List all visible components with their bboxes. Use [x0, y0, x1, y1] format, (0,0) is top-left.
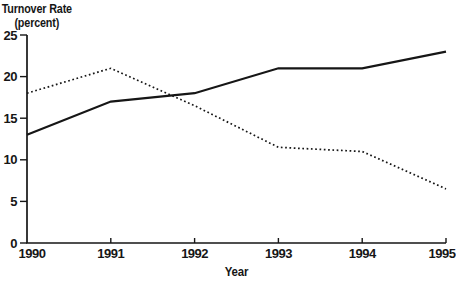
chart-plot-area: 0510152025199019911992199319941995: [0, 0, 456, 286]
axes: [27, 35, 446, 243]
turnover-rate-chart: 0510152025199019911992199319941995 Turno…: [0, 0, 456, 286]
y-axis-title-line1: Turnover Rate: [0, 2, 74, 16]
y-axis-title: Turnover Rate (percent): [0, 2, 74, 30]
x-tick-label: 1993: [265, 246, 292, 261]
solid-series-line: [27, 52, 446, 135]
y-tick-label: 15: [4, 111, 18, 126]
dotted-series-line: [27, 68, 446, 189]
x-tick-label: 1992: [181, 246, 208, 261]
y-tick-label: 0: [10, 236, 17, 251]
x-axis-title: Year: [58, 264, 414, 279]
y-tick-label: 10: [4, 152, 18, 167]
x-tick-label: 1990: [19, 246, 46, 261]
y-axis-title-line2: (percent): [0, 16, 74, 30]
x-tick-label: 1994: [349, 246, 377, 261]
x-tick-label: 1995: [429, 246, 456, 261]
x-tick-label: 1991: [97, 246, 124, 261]
y-tick-label: 5: [10, 194, 17, 209]
y-tick-label: 20: [4, 69, 18, 84]
